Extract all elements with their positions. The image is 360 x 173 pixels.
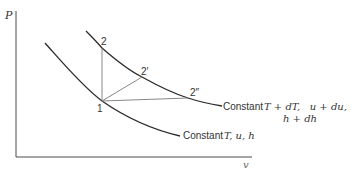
- point-label-1: 1: [97, 103, 103, 114]
- point-label-2: 2: [101, 36, 107, 47]
- pv-diagram: P v 2 2′ 2″ 1 Constant T + dT, u + du, h…: [0, 0, 360, 173]
- upper-curve-label-line2: h + dh: [283, 113, 317, 124]
- lower-curve-label-prefix: Constant: [183, 130, 223, 141]
- point-label-2prime: 2′: [141, 66, 149, 77]
- line-1-to-2prime: [102, 77, 142, 101]
- upper-curve-label-prefix: Constant: [223, 101, 263, 112]
- y-axis-label: P: [4, 9, 13, 22]
- line-1-to-2dprime: [102, 98, 188, 101]
- upper-curve-label-math: T + dT, u + du,: [264, 101, 347, 112]
- x-axis-label: v: [243, 159, 249, 170]
- lower-curve-label-math: T, u, h: [224, 130, 255, 141]
- point-label-2dprime: 2″: [190, 87, 200, 98]
